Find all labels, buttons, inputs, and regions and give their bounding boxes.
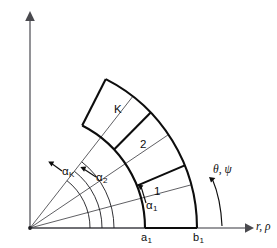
radial-axis-label: r, ρ <box>256 221 270 233</box>
tick-label-b1: b1 <box>193 232 204 245</box>
theta-psi-pointer-line <box>213 180 223 227</box>
cell-dividers <box>114 112 185 185</box>
axes-group <box>25 11 254 233</box>
tick-label-a1: a1 <box>141 232 152 245</box>
cell-label-2: 2 <box>140 139 147 151</box>
alpha-2-pointer-arrowhead <box>80 167 86 172</box>
angle-label-alpha-K-subscript: K <box>69 170 74 179</box>
guide-line-alpha-K <box>30 96 133 228</box>
angle-label-alpha-K: αK <box>62 166 74 179</box>
figure-canvas: 1 2 K α1 α2 αK a1 b1 θ, ψ r, ρ <box>0 0 277 248</box>
alpha-2-pointer <box>80 167 96 177</box>
vertical-axis-arrowhead <box>25 11 35 21</box>
angle-label-alpha-1: α1 <box>146 200 157 213</box>
cell-label-K: K <box>114 104 122 116</box>
guide-line-alpha-1 <box>30 185 191 228</box>
theta-psi-pointer-arrowhead <box>209 177 215 182</box>
alpha-K-pointer-arrowhead <box>48 161 54 166</box>
angle-guide-lines <box>30 96 197 228</box>
cell-label-1: 1 <box>154 186 161 198</box>
angle-label-alpha-1-symbol: α <box>146 199 153 211</box>
tick-label-a1-subscript: 1 <box>147 236 151 245</box>
alpha-2-pointer-line <box>84 169 96 177</box>
angular-axis-label: θ, ψ <box>213 164 232 176</box>
radial-axis-arrowhead <box>245 223 254 233</box>
radial-edge-end <box>82 79 106 125</box>
tick-label-b1-subscript: 1 <box>199 236 203 245</box>
alpha-K-pointer <box>48 161 62 171</box>
cell-divider-1-2 <box>137 165 185 186</box>
sector-outline <box>82 79 197 228</box>
angle-label-alpha-2-subscript: 2 <box>103 176 107 185</box>
angle-label-alpha-K-symbol: α <box>62 165 69 177</box>
inner-arc <box>82 126 145 229</box>
theta-psi-pointer <box>209 177 222 226</box>
angle-label-alpha-2-symbol: α <box>96 171 103 183</box>
guide-arc-alpha-1 <box>67 181 90 228</box>
diagram-svg <box>0 0 277 248</box>
angle-label-alpha-1-subscript: 1 <box>153 204 157 213</box>
angle-label-alpha-2: α2 <box>96 172 107 185</box>
alpha-K-pointer-line <box>52 164 62 172</box>
